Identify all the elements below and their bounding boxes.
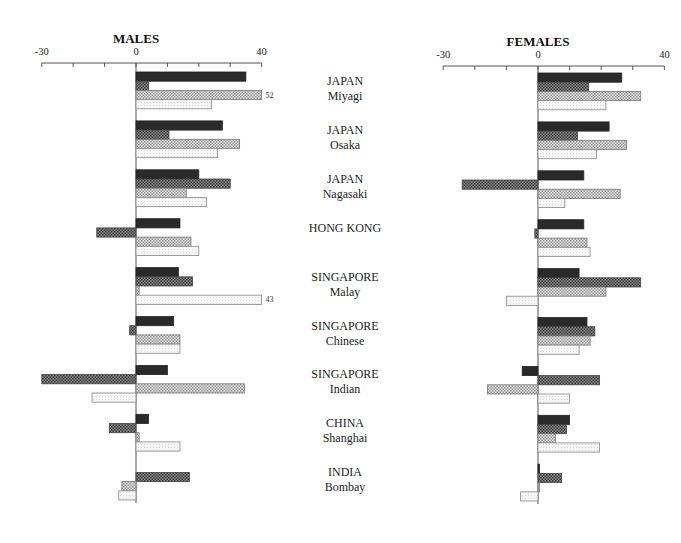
- bar-series-3: [136, 90, 262, 99]
- data-label: 52: [266, 91, 274, 100]
- category-label-primary: SINGAPORE: [311, 367, 378, 381]
- females-panel: FEMALES -30040: [436, 34, 669, 504]
- category-label-secondary: Chinese: [326, 334, 365, 348]
- bar-series-4: [136, 149, 218, 158]
- bar-series-1: [136, 170, 199, 179]
- bar-series-2: [136, 277, 193, 286]
- category-label-primary: SINGAPORE: [311, 270, 378, 284]
- bar-series-1: [538, 415, 570, 424]
- x-tick-label: 40: [256, 46, 267, 57]
- males-title: MALES: [113, 31, 159, 46]
- bar-series-2: [535, 229, 538, 238]
- bar-series-4: [538, 101, 606, 110]
- category-label-primary: JAPAN: [327, 74, 364, 88]
- bar-series-3: [487, 385, 538, 394]
- bar-series-1: [538, 269, 579, 278]
- category-label-primary: JAPAN: [327, 123, 364, 137]
- bar-series-4: [136, 295, 262, 304]
- x-tick-label: -30: [436, 49, 450, 60]
- bar-series-1: [136, 317, 174, 326]
- bar-series-3: [538, 189, 620, 198]
- bar-series-2: [130, 326, 136, 335]
- x-tick-label: 0: [535, 49, 540, 60]
- x-tick-label: 40: [659, 49, 670, 60]
- bar-series-2: [538, 327, 595, 336]
- bar-series-2: [136, 179, 230, 188]
- bar-series-2: [538, 278, 641, 287]
- bar-series-3: [136, 237, 191, 246]
- category-label-primary: INDIA: [328, 465, 362, 479]
- bar-series-1: [538, 464, 540, 473]
- bar-series-2: [42, 375, 136, 384]
- bar-series-4: [521, 492, 538, 501]
- category-labels: JAPANMiyagiJAPANOsakaJAPANNagasakiHONG K…: [309, 74, 382, 494]
- bar-series-4: [136, 344, 180, 353]
- category-label-secondary: Indian: [330, 382, 361, 396]
- bar-series-3: [538, 287, 606, 296]
- bar-series-2: [538, 376, 600, 385]
- bar-series-2: [136, 130, 169, 139]
- category-label-secondary: Osaka: [330, 138, 361, 152]
- category-label-secondary: Malay: [330, 285, 361, 299]
- bar-series-1: [136, 219, 180, 228]
- category-label-primary: CHINA: [326, 416, 364, 430]
- bar-series-2: [462, 180, 538, 189]
- bar-series-4: [538, 198, 565, 207]
- bar-series-1: [136, 414, 149, 423]
- category-label-secondary: Shanghai: [323, 431, 368, 445]
- category-label-secondary: Miyagi: [328, 89, 363, 103]
- bar-series-3: [538, 91, 641, 100]
- bar-series-4: [538, 247, 590, 256]
- bar-series-3: [136, 139, 240, 148]
- bar-series-1: [136, 72, 246, 81]
- bar-series-4: [136, 246, 199, 255]
- bar-series-4: [136, 100, 211, 109]
- bar-series-3: [136, 188, 186, 197]
- bar-series-3: [136, 286, 139, 295]
- bar-series-1: [538, 171, 584, 180]
- bar-series-3: [136, 384, 244, 393]
- bar-series-1: [538, 220, 584, 229]
- bar-series-3: [538, 238, 587, 247]
- bar-series-1: [538, 73, 622, 82]
- bar-series-1: [538, 318, 587, 327]
- bar-series-1: [538, 122, 609, 131]
- bar-series-2: [538, 425, 566, 434]
- category-label-primary: JAPAN: [327, 172, 364, 186]
- bar-series-3: [136, 335, 180, 344]
- bar-series-4: [136, 197, 207, 206]
- bar-series-4: [538, 150, 596, 159]
- bar-series-4: [506, 296, 538, 305]
- bar-series-1: [136, 121, 222, 130]
- bar-series-3: [538, 434, 555, 443]
- category-label-primary: HONG KONG: [309, 221, 382, 235]
- bar-series-3: [122, 482, 136, 491]
- x-tick-label: -30: [35, 46, 49, 57]
- bar-series-1: [136, 365, 167, 374]
- category-label-primary: SINGAPORE: [311, 319, 378, 333]
- bar-series-1: [136, 268, 178, 277]
- females-title: FEMALES: [507, 34, 570, 49]
- bar-series-2: [109, 424, 136, 433]
- bar-series-3: [538, 336, 590, 345]
- chart-canvas: MALES -300405243 FEMALES -30040 JAPANMiy…: [0, 0, 681, 543]
- bar-series-4: [92, 393, 136, 402]
- category-label-secondary: Bombay: [325, 480, 366, 494]
- bar-series-2: [136, 81, 149, 90]
- bar-series-1: [522, 366, 538, 375]
- bar-series-3: [136, 433, 139, 442]
- bar-series-2: [538, 473, 562, 482]
- bar-series-2: [538, 82, 589, 91]
- males-panel: MALES -300405243: [35, 31, 274, 503]
- bar-series-2: [136, 472, 189, 481]
- bar-series-3: [538, 483, 540, 492]
- data-label: 43: [266, 295, 274, 304]
- bar-series-4: [538, 443, 600, 452]
- bar-series-4: [119, 491, 136, 500]
- bar-series-4: [538, 394, 570, 403]
- bar-series-2: [97, 228, 136, 237]
- x-tick-label: 0: [133, 46, 138, 57]
- bar-series-3: [538, 140, 626, 149]
- bar-series-2: [538, 131, 578, 140]
- category-label-secondary: Nagasaki: [323, 187, 368, 201]
